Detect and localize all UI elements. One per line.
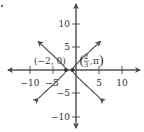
fraction-numerator: 2	[84, 53, 88, 61]
point-vertex-left	[64, 68, 68, 72]
point-label-left: (−2, 0)	[34, 56, 66, 66]
y-tick-label: 5	[64, 42, 70, 52]
svg-text:): )	[99, 53, 104, 68]
exercise-marker	[1, 5, 3, 7]
svg-text:,: ,	[90, 56, 93, 66]
y-tick-label: −10	[51, 112, 70, 122]
x-tick-label: −5	[45, 78, 59, 88]
y-tick-label: 10	[59, 19, 71, 29]
x-tick-label: −10	[21, 78, 40, 88]
polar-graph: −10 −5 5 10 10 5 −5 −10 (−2, 0) ( 2 3 , …	[0, 0, 144, 132]
x-tick-label: 10	[116, 78, 128, 88]
fraction-denominator: 3	[84, 61, 88, 69]
point-vertex-right	[71, 68, 75, 72]
point-label-right: ( 2 3 , π )	[79, 53, 104, 69]
y-tick-label: −5	[57, 88, 71, 98]
x-tick-label: 5	[96, 78, 102, 88]
